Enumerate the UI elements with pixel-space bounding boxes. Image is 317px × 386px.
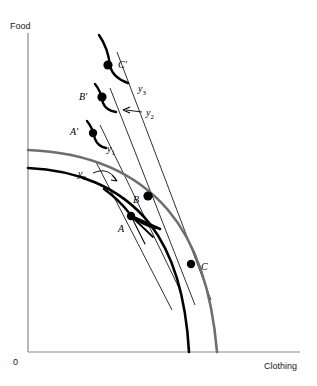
curve-label-y0-sub: 0 — [82, 174, 86, 182]
origin-label: 0 — [13, 357, 18, 367]
point-label-B-prime: B′ — [79, 91, 88, 102]
point-label-C: C — [201, 261, 208, 272]
point-C-prime[interactable] — [103, 60, 112, 69]
point-label-C-prime: C′ — [118, 59, 128, 70]
point-A-prime[interactable] — [89, 129, 97, 137]
curve-label-y0: y0 — [77, 168, 86, 182]
x-axis-title: Clothing — [264, 361, 297, 371]
curve-label-y3-sub: 3 — [142, 89, 146, 97]
budget-line-y3 — [117, 52, 211, 300]
curve-label-y3: y3 — [137, 83, 146, 97]
point-label-B: B — [133, 194, 139, 205]
point-B-prime[interactable] — [97, 92, 106, 101]
point-A[interactable] — [127, 212, 135, 220]
curve-labels-group: y0 y1 y2 y3 — [77, 83, 154, 182]
curve-label-y2: y2 — [145, 107, 154, 121]
axes-group — [28, 33, 300, 352]
y-axis-title: Food — [10, 21, 31, 31]
ppf-inner-curve — [28, 168, 189, 352]
budget-line-y0 — [96, 162, 172, 310]
curve-label-y1-sub: 1 — [111, 149, 115, 157]
ppf-trade-diagram: Food Clothing 0 — [0, 0, 317, 386]
budget-lines-group — [96, 52, 211, 310]
curve-label-y1: y1 — [106, 143, 115, 157]
point-label-A-prime: A′ — [69, 126, 79, 137]
point-B[interactable] — [143, 191, 152, 200]
ppf-outer-curve — [28, 150, 217, 352]
point-label-A: A — [117, 223, 125, 234]
diagram-canvas: Food Clothing 0 — [0, 0, 317, 386]
curve-label-y2-sub: 2 — [150, 113, 154, 121]
point-C[interactable] — [187, 260, 195, 268]
